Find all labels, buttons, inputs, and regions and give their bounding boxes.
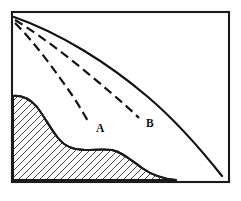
figure-container: A B [0,0,241,201]
point-label-a: A [96,122,105,134]
cross-section-diagram: A B [0,0,241,201]
point-label-b: B [146,117,154,129]
